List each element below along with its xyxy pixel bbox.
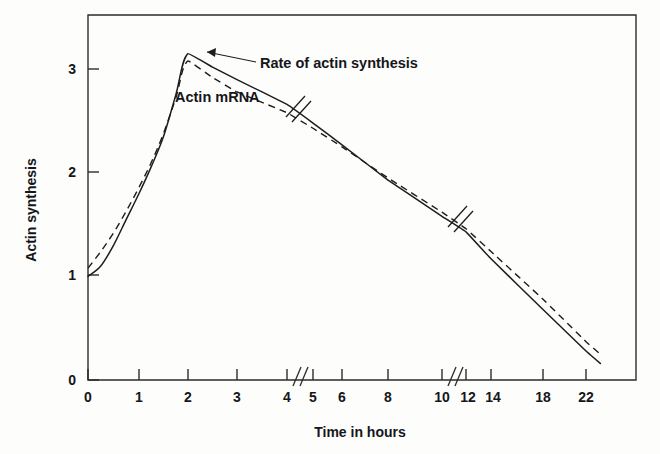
curve-break-marks — [286, 96, 473, 232]
x-tick-label-18: 18 — [535, 389, 551, 405]
x-tick-label-2: 2 — [184, 389, 192, 405]
x-tick-label-22: 22 — [578, 389, 594, 405]
x-tick-label-6: 6 — [338, 389, 346, 405]
x-axis-tick-labels: 0 1 2 3 4 5 6 8 10 12 14 18 22 — [84, 389, 594, 405]
x-tick-label-14: 14 — [485, 389, 501, 405]
y-tick-label-1: 1 — [68, 267, 76, 283]
x-axis-break-1-slash-b — [300, 367, 308, 386]
x-tick-label-4: 4 — [283, 389, 291, 405]
y-axis-title: Actin synthesis — [23, 158, 39, 262]
x-tick-label-10: 10 — [434, 389, 450, 405]
series-label-actin-mrna: Actin mRNA — [175, 89, 260, 105]
x-tick-label-8: 8 — [384, 389, 392, 405]
rate-label-leader — [207, 48, 256, 62]
series-label-rate-of-actin-synthesis: Rate of actin synthesis — [260, 55, 418, 71]
series-path-actin-mrna — [88, 61, 600, 354]
x-tick-label-5: 5 — [309, 389, 317, 405]
x-axis-break-2-slash-a — [448, 367, 456, 386]
leader-arrow-head-icon — [207, 48, 216, 57]
y-axis-tick-labels: 3 2 1 0 — [68, 61, 76, 388]
chart-figure: 3 2 1 0 Actin synthesis — [0, 0, 660, 454]
y-tick-label-2: 2 — [68, 164, 76, 180]
x-tick-label-0: 0 — [84, 389, 92, 405]
x-axis-ticks — [88, 369, 586, 380]
y-axis-ticks — [88, 69, 99, 380]
x-axis-title: Time in hours — [314, 424, 406, 440]
series-path-rate-of-actin-synthesis — [88, 54, 600, 364]
x-tick-label-3: 3 — [233, 389, 241, 405]
x-axis-break-marks — [293, 367, 463, 386]
y-tick-label-3: 3 — [68, 61, 76, 77]
x-tick-label-1: 1 — [135, 389, 143, 405]
y-tick-label-0: 0 — [68, 372, 76, 388]
actin-synthesis-line-chart: 3 2 1 0 Actin synthesis — [0, 0, 660, 454]
x-axis-break-1-slash-a — [293, 367, 301, 386]
x-tick-label-12: 12 — [460, 389, 476, 405]
curve-break-2-bar-a — [448, 206, 467, 227]
x-axis-break-2-slash-b — [455, 367, 463, 386]
